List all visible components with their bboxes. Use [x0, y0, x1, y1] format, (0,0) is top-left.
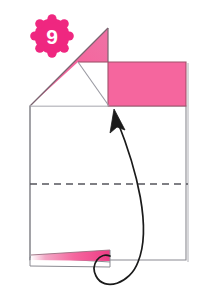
- step-badge-shape: 9: [30, 14, 74, 58]
- main-square-panel: [30, 106, 186, 260]
- step-number-badge: 9: [30, 14, 74, 58]
- step-number-text: 9: [46, 25, 58, 48]
- origami-step-diagram: 9: [0, 0, 209, 295]
- upper-right-pink-rectangle: [108, 62, 186, 106]
